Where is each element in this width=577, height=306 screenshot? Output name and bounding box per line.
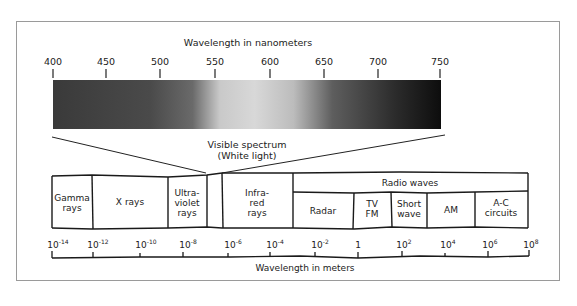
m-tick-label: 104 — [440, 238, 455, 250]
nm-axis-title: Wavelength in nanometers — [184, 37, 312, 48]
band-am: AM — [444, 205, 458, 215]
nm-tick-label: 400 — [44, 56, 62, 67]
m-axis-title: Wavelength in meters — [255, 263, 354, 273]
nm-tick-label: 500 — [151, 56, 169, 67]
em-spectrum-diagram: Wavelength in nanometers 400 450 500 550… — [0, 0, 577, 306]
band-ir-line1: Infra- — [245, 188, 269, 198]
nm-tick-label: 650 — [315, 56, 333, 67]
visible-label-line2: (White light) — [217, 150, 276, 161]
m-tick-label: 10-6 — [224, 238, 242, 250]
band-tvfm-line1: TV — [365, 199, 378, 209]
m-tick-label: 106 — [482, 238, 497, 250]
meters-axis: 10-14 10-12 10-10 10-8 10-6 10-4 10-2 1 … — [47, 238, 538, 273]
visible-label-line1: Visible spectrum — [207, 139, 286, 150]
band-gamma-line1: Gamma — [54, 193, 90, 203]
m-tick-label: 102 — [396, 238, 411, 250]
band-uv-line1: Ultra- — [174, 188, 199, 198]
m-tick-label: 10-4 — [266, 238, 284, 250]
nm-tick-label: 750 — [431, 56, 449, 67]
nm-tick-label: 550 — [206, 56, 224, 67]
m-tick-label: 10-12 — [87, 238, 108, 250]
m-tick-label: 10-8 — [179, 238, 197, 250]
m-tick-label: 1 — [355, 240, 361, 250]
band-tvfm-line2: FM — [366, 209, 379, 219]
m-tick-label: 10-14 — [47, 238, 68, 250]
nm-tick-label: 600 — [261, 56, 279, 67]
band-uv-line2: violet — [175, 198, 200, 208]
band-xray: X rays — [116, 197, 145, 207]
visible-spectrum-bar — [53, 80, 441, 129]
band-shortwave-line1: Short — [397, 199, 422, 209]
nm-tick-label: 450 — [97, 56, 115, 67]
m-tick-label: 10-10 — [135, 238, 156, 250]
band-shortwave-line2: wave — [397, 209, 421, 219]
band-ac-line1: A-C — [493, 198, 509, 208]
nm-tick-label: 700 — [369, 56, 387, 67]
m-tick-label: 10-2 — [311, 238, 329, 250]
band-ac-line2: circuits — [485, 208, 518, 218]
band-gamma-line2: rays — [62, 203, 82, 213]
nm-axis: 400 450 500 550 600 650 700 750 — [44, 56, 449, 78]
band-radar: Radar — [310, 206, 337, 216]
band-uv-line3: rays — [177, 208, 197, 218]
band-ir-line2: red — [250, 198, 265, 208]
m-tick-label: 108 — [523, 238, 538, 250]
band-radio: Radio waves — [382, 178, 439, 188]
band-ir-line3: rays — [247, 208, 267, 218]
